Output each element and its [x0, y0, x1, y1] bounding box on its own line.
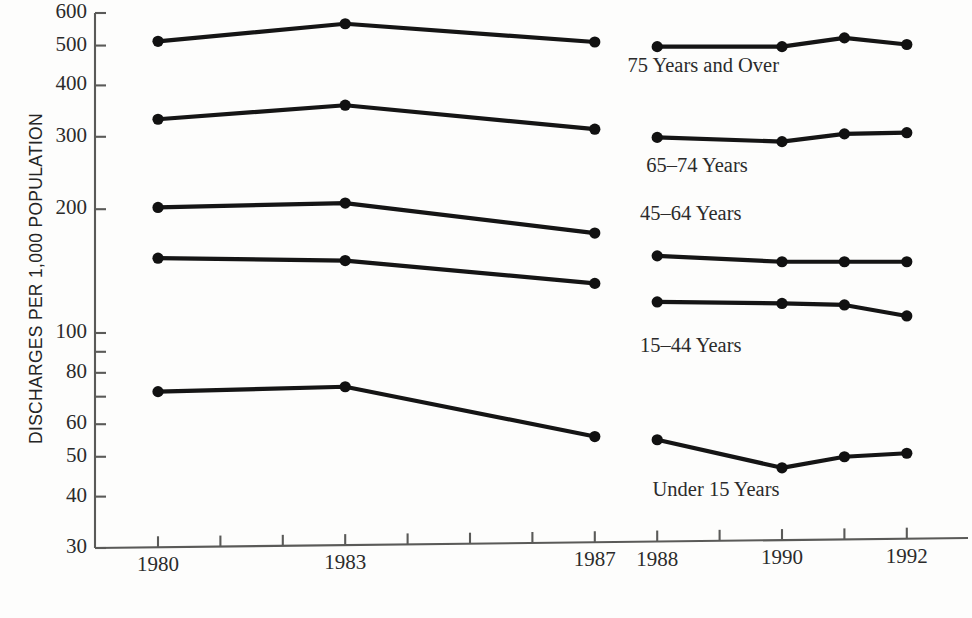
- data-point: [839, 32, 850, 43]
- data-point: [652, 434, 663, 445]
- y-tick-label: 400: [31, 71, 87, 96]
- axes-group: [95, 13, 968, 548]
- y-tick-label: 300: [31, 123, 87, 148]
- data-point: [152, 202, 163, 213]
- data-point: [589, 227, 600, 238]
- x-tick-label: 1983: [305, 550, 385, 575]
- data-point: [776, 256, 787, 267]
- data-point: [901, 310, 912, 321]
- data-point: [340, 197, 351, 208]
- data-point: [340, 381, 351, 392]
- series-5: [152, 381, 912, 473]
- data-point: [152, 114, 163, 125]
- data-point: [652, 296, 663, 307]
- series-line: [158, 258, 595, 283]
- data-point: [901, 256, 912, 267]
- data-point: [589, 36, 600, 47]
- data-point: [776, 298, 787, 309]
- series-group: [152, 18, 912, 473]
- x-tick-label: 1988: [617, 547, 697, 572]
- y-tick-label: 200: [31, 195, 87, 220]
- y-tick-label: 80: [31, 359, 87, 384]
- data-point: [340, 255, 351, 266]
- series-line: [158, 387, 595, 437]
- data-point: [589, 124, 600, 135]
- data-point: [589, 431, 600, 442]
- y-tick-label: 40: [31, 483, 87, 508]
- x-tick-label: 1992: [867, 544, 947, 569]
- data-point: [152, 386, 163, 397]
- data-point: [589, 278, 600, 289]
- data-point: [901, 448, 912, 459]
- data-point: [652, 250, 663, 261]
- y-tick-label: 600: [31, 0, 87, 24]
- data-point: [340, 18, 351, 29]
- data-point: [776, 41, 787, 52]
- series-label-5: Under 15 Years: [653, 478, 780, 501]
- x-tick-label: 1980: [118, 552, 198, 577]
- series-label-4: 15–44 Years: [640, 334, 741, 357]
- data-point: [152, 253, 163, 264]
- series-2: [152, 100, 912, 148]
- series-label-3: 45–64 Years: [640, 202, 741, 225]
- y-tick-label: 500: [31, 32, 87, 57]
- data-point: [652, 41, 663, 52]
- series-1: [152, 18, 912, 52]
- y-tick-label: 60: [31, 410, 87, 435]
- data-point: [901, 127, 912, 138]
- data-point: [152, 36, 163, 47]
- y-tick-label: 50: [31, 443, 87, 468]
- data-point: [340, 100, 351, 111]
- y-tick-label: 100: [31, 319, 87, 344]
- data-point: [901, 39, 912, 50]
- data-point: [839, 451, 850, 462]
- series-3: [152, 197, 912, 267]
- chart-figure: DISCHARGES PER 1,000 POPULATION 60050040…: [0, 0, 972, 618]
- series-line: [158, 203, 595, 233]
- y-tick-label: 30: [31, 534, 87, 559]
- series-label-1: 75 Years and Over: [628, 54, 779, 77]
- data-point: [776, 462, 787, 473]
- chart-canvas: [0, 0, 972, 618]
- data-point: [776, 136, 787, 147]
- series-label-2: 65–74 Years: [646, 154, 747, 177]
- data-point: [839, 299, 850, 310]
- x-tick-label: 1990: [742, 545, 822, 570]
- series-line: [158, 105, 595, 129]
- data-point: [839, 128, 850, 139]
- data-point: [652, 132, 663, 143]
- series-line: [158, 24, 595, 42]
- data-point: [839, 256, 850, 267]
